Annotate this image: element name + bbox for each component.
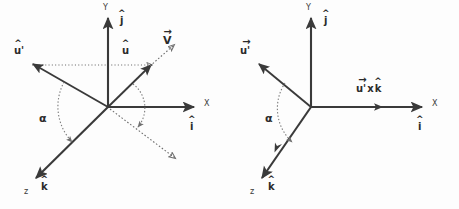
hat-accent-icon: ^ [268, 175, 276, 184]
v-vector-line [150, 45, 174, 66]
left-y-axis-label: Y [103, 4, 108, 12]
right-x-axis-label: X [432, 100, 437, 108]
hat-accent-icon: ^ [322, 9, 330, 18]
reflected-vector-line [110, 109, 175, 158]
cross-product-label: → u' x ^ k [356, 84, 381, 94]
left-alpha-label: α [39, 113, 47, 124]
u-prime-vector-line [33, 64, 108, 107]
hat-accent-icon: ^ [188, 115, 196, 124]
right-diagram-graphics [259, 18, 422, 178]
right-i-hat-label: ^ i [418, 122, 421, 132]
right-alpha-label: α [265, 113, 273, 124]
hat-accent-icon: ^ [118, 9, 126, 18]
vector-arrow-accent-icon: → [358, 75, 365, 85]
alpha-arc [58, 82, 72, 142]
left-k-hat-label: ^ k [41, 182, 48, 192]
left-u-prime-label: ^ u' [14, 46, 24, 56]
left-z-axis-label: z [24, 188, 28, 196]
hat-accent-icon: ^ [416, 115, 424, 124]
left-i-hat-label: ^ i [190, 122, 193, 132]
left-u-label: ^ u [122, 46, 129, 56]
right-j-hat-label: ^ j [324, 16, 327, 26]
vector-arrow-accent-icon: → [164, 27, 171, 37]
hat-accent-icon: ^ [122, 39, 130, 48]
diagram-canvas: Y ^ j X ^ i z ^ k ^ u' ^ u → [0, 0, 459, 209]
vector-arrow-accent-icon: → [242, 37, 249, 47]
hat-accent-icon: ^ [374, 77, 382, 86]
vector-graphics [0, 0, 459, 209]
alpha-arc [277, 83, 292, 142]
u-prime-vector-line [259, 64, 311, 107]
left-v-vector-label: → V [163, 35, 172, 46]
left-x-axis-label: X [204, 100, 209, 108]
left-j-hat-label: ^ j [120, 16, 123, 26]
right-k-hat-label: ^ k [268, 182, 275, 192]
hat-accent-icon: ^ [14, 39, 22, 48]
hat-accent-icon: ^ [41, 175, 49, 184]
rotation-arc [133, 84, 145, 127]
right-u-prime-label: → u' [240, 46, 250, 56]
right-z-axis-label: z [250, 188, 254, 196]
right-y-axis-label: Y [306, 4, 311, 12]
